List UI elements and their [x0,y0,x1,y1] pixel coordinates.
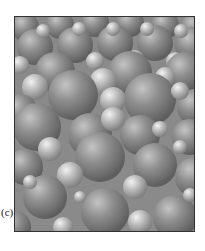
sphere-packing-image [15,17,195,232]
panel-label: (c) [1,206,13,218]
sphere-packing-figure [14,16,195,232]
